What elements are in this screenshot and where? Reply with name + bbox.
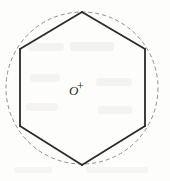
ghost-blob [86,167,148,173]
hexagon-in-circle-figure [0,0,170,181]
ghost-blob [26,103,58,111]
ghost-blob [96,78,132,86]
vertex-bottom [81,164,83,166]
ghost-blob [28,43,64,51]
vertex-lower-right [144,125,146,127]
vertex-lower-left [19,125,21,127]
ghost-blob [70,42,114,51]
ghost-blob [14,167,52,173]
ghost-blob [98,106,132,114]
figure-container: O + [0,0,170,181]
ghost-bleedthrough-group [14,42,148,173]
ghost-blob [30,74,60,82]
center-point-cross-icon: + [77,80,84,92]
vertex-upper-left [19,48,21,50]
vertex-top [81,11,83,13]
vertex-upper-right [144,48,146,50]
